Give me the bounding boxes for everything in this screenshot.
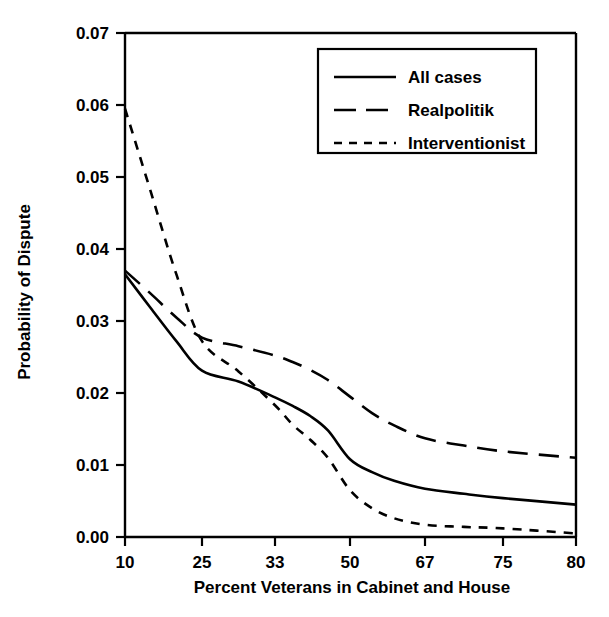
series-line-realpolitik — [125, 271, 576, 458]
legend-label-interventionist: Interventionist — [408, 134, 525, 153]
y-axis-ticks: 0.000.010.020.030.040.050.060.07 — [76, 24, 125, 547]
chart-figure: 0.000.010.020.030.040.050.060.07 1025335… — [0, 0, 609, 617]
x-tick-label: 33 — [266, 553, 285, 572]
y-tick-label: 0.06 — [76, 96, 109, 115]
y-tick-label: 0.00 — [76, 528, 109, 547]
x-axis-ticks: 10253350677580 — [116, 537, 586, 572]
y-tick-label: 0.01 — [76, 456, 109, 475]
x-tick-label: 50 — [341, 553, 360, 572]
series-line-interventionist — [125, 109, 576, 534]
y-axis-title: Probability of Dispute — [15, 204, 34, 380]
x-tick-label: 25 — [193, 553, 212, 572]
y-tick-label: 0.03 — [76, 312, 109, 331]
probability-of-dispute-line-chart: 0.000.010.020.030.040.050.060.07 1025335… — [0, 0, 609, 617]
legend-label-all-cases: All cases — [408, 68, 482, 87]
x-tick-label: 67 — [416, 553, 435, 572]
legend-label-realpolitik: Realpolitik — [408, 101, 495, 120]
x-tick-label: 10 — [116, 553, 135, 572]
x-tick-label: 80 — [567, 553, 586, 572]
x-tick-label: 75 — [494, 553, 513, 572]
y-tick-label: 0.04 — [76, 240, 110, 259]
data-series-group — [125, 109, 576, 534]
x-axis-title: Percent Veterans in Cabinet and House — [194, 578, 510, 597]
chart-legend: All casesRealpolitikInterventionist — [318, 49, 536, 153]
y-tick-label: 0.05 — [76, 168, 109, 187]
y-tick-label: 0.02 — [76, 384, 109, 403]
y-tick-label: 0.07 — [76, 24, 109, 43]
series-line-all-cases — [125, 274, 576, 504]
